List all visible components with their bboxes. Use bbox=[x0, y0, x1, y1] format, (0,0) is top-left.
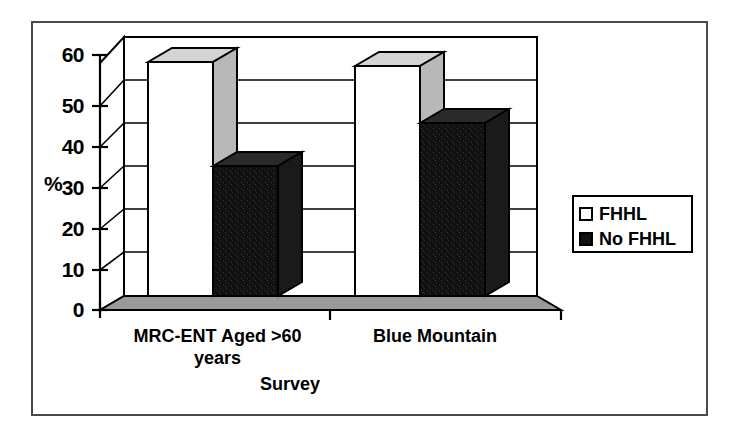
legend-swatch-no-fhhl-icon bbox=[579, 232, 593, 246]
legend-item-no-fhhl: No FHHL bbox=[579, 226, 686, 251]
legend-item-fhhl: FHHL bbox=[579, 201, 686, 226]
y-tick-label-50: 50 bbox=[38, 95, 84, 116]
y-tick-label-20: 20 bbox=[38, 218, 84, 239]
legend-label-fhhl: FHHL bbox=[599, 205, 647, 223]
x-category-label-blue-mountain-line1: Blue Mountain bbox=[335, 325, 535, 347]
chart-legend: FHHL No FHHL bbox=[572, 195, 693, 253]
x-category-label-mrc-ent-line2: years bbox=[105, 347, 330, 369]
y-tick-label-10: 10 bbox=[38, 259, 84, 280]
chart-figure: 60 50 40 30 20 10 0 % MRC-ENT Aged >60 y… bbox=[0, 0, 739, 429]
bar-no-fhhl-blue-mountain bbox=[420, 109, 509, 296]
legend-label-no-fhhl: No FHHL bbox=[599, 230, 676, 248]
bar-no-fhhl-mrc-ent bbox=[213, 152, 302, 296]
y-tick-label-60: 60 bbox=[38, 44, 84, 65]
x-axis-title: Survey bbox=[180, 375, 400, 393]
x-category-label-blue-mountain: Blue Mountain bbox=[335, 325, 535, 347]
plot-floor bbox=[100, 296, 561, 310]
y-tick-label-40: 40 bbox=[38, 136, 84, 157]
x-category-label-mrc-ent: MRC-ENT Aged >60 years bbox=[105, 325, 330, 369]
y-tick-label-0: 0 bbox=[38, 299, 84, 320]
x-category-label-mrc-ent-line1: MRC-ENT Aged >60 bbox=[105, 325, 330, 347]
y-axis-label: % bbox=[44, 173, 63, 194]
legend-swatch-fhhl-icon bbox=[579, 207, 593, 221]
